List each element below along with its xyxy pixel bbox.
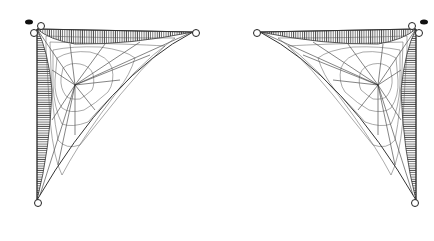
- left-web-ornament: [25, 20, 200, 207]
- right-web-ornament: [254, 20, 429, 207]
- ornaments-canvas: [0, 0, 434, 241]
